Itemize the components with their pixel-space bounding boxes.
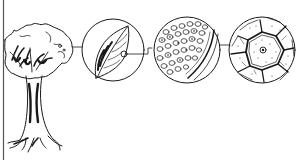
connector-leaf-to-tissue: [127, 48, 152, 54]
levels-of-organization-diagram: [0, 0, 304, 160]
diagram-stage: [0, 0, 304, 160]
tissue-circle: [154, 17, 230, 83]
tissue-epidermis: [188, 30, 214, 78]
tree-illustration: [5, 23, 82, 152]
cell-circle: [229, 17, 295, 83]
leaf-circle: [82, 19, 152, 81]
